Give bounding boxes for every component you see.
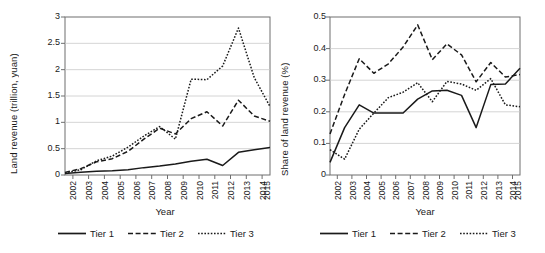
y-tick-label: 0.5 [296, 11, 326, 21]
x-tick-label: 2009 [435, 181, 445, 200]
y-tick-label: 1.5 [34, 90, 60, 100]
x-tick-label: 2003 [84, 181, 94, 200]
x-tick-label: 2007 [406, 181, 416, 200]
legend-key-dashed-icon [128, 229, 156, 238]
y-tick-label: 1 [34, 116, 60, 126]
x-tick-label: 2004 [362, 181, 372, 200]
x-tick-label: 2005 [377, 181, 387, 200]
x-tick-label: 2010 [195, 181, 205, 200]
y-tick-label: 0.5 [34, 143, 60, 153]
legend-item-tier-3: Tier 3 [198, 228, 254, 239]
figure-container: Land revenue (trillion, yuan) 3 2.5 2 1.… [0, 0, 545, 253]
legend-item-tier-2: Tier 2 [128, 228, 184, 239]
x-tick-label: 2007 [147, 181, 157, 200]
legend-item-tier-1: Tier 1 [320, 228, 376, 239]
y-tick-marks-left [61, 17, 65, 175]
y-tick-label: 2 [34, 64, 60, 74]
legend-label-tier-1: Tier 1 [352, 228, 376, 239]
x-tick-label: 2006 [132, 181, 142, 200]
x-tick-label: 2013 [242, 181, 252, 200]
x-tick-label: 2009 [179, 181, 189, 200]
y-axis-title-left: Land revenue (trillion, yuan) [8, 14, 19, 174]
x-tick-label: 2010 [450, 181, 460, 200]
y-tick-label: 0 [34, 169, 60, 179]
x-tick-label: 2012 [226, 181, 236, 200]
x-tick-label: 2013 [494, 181, 504, 200]
y-tick-marks-right [326, 17, 330, 175]
x-tick-label: 2015 [513, 181, 523, 200]
x-tick-label: 2015 [262, 181, 272, 200]
y-tick-label: 0.2 [296, 106, 326, 116]
legend-left: Tier 1 Tier 2 Tier 3 [58, 228, 254, 239]
legend-right: Tier 1 Tier 2 Tier 3 [320, 228, 516, 239]
legend-key-dashed-icon [390, 229, 418, 238]
legend-key-solid-icon [320, 229, 348, 238]
x-tick-label: 2004 [100, 181, 110, 200]
y-axis-title-right: Share of land revenue (%) [279, 16, 290, 176]
legend-label-tier-2: Tier 2 [422, 228, 446, 239]
legend-item-tier-2: Tier 2 [390, 228, 446, 239]
legend-key-dotted-icon [460, 229, 488, 238]
x-tick-label: 2002 [68, 181, 78, 200]
legend-key-solid-icon [58, 229, 86, 238]
y-tick-label: 0.3 [296, 74, 326, 84]
x-tick-label: 2006 [391, 181, 401, 200]
x-tick-label: 2012 [479, 181, 489, 200]
x-tick-label: 2005 [116, 181, 126, 200]
x-tick-label: 2008 [421, 181, 431, 200]
x-axis-title-left: Year [125, 206, 205, 217]
x-axis-title-right: Year [385, 206, 465, 217]
x-tick-label: 2002 [333, 181, 343, 200]
legend-key-dotted-icon [198, 229, 226, 238]
legend-label-tier-1: Tier 1 [90, 228, 114, 239]
x-tick-marks-left [73, 175, 262, 179]
legend-label-tier-3: Tier 3 [492, 228, 516, 239]
x-tick-marks-right [337, 175, 512, 179]
legend-label-tier-2: Tier 2 [160, 228, 184, 239]
legend-item-tier-3: Tier 3 [460, 228, 516, 239]
x-tick-label: 2011 [464, 181, 474, 199]
y-tick-label: 3 [34, 11, 60, 21]
x-tick-label: 2003 [348, 181, 358, 200]
chart-panel-right: Share of land revenue (%) 0.5 0.4 0.3 0.… [272, 0, 544, 253]
y-tick-label: 0.4 [296, 43, 326, 53]
y-tick-label: 2.5 [34, 37, 60, 47]
legend-label-tier-3: Tier 3 [230, 228, 254, 239]
y-tick-label: 0.1 [296, 137, 326, 147]
legend-item-tier-1: Tier 1 [58, 228, 114, 239]
x-tick-label: 2008 [163, 181, 173, 200]
x-tick-label: 2011 [210, 181, 220, 199]
chart-panel-left: Land revenue (trillion, yuan) 3 2.5 2 1.… [0, 0, 272, 253]
y-tick-label: 0 [296, 169, 326, 179]
